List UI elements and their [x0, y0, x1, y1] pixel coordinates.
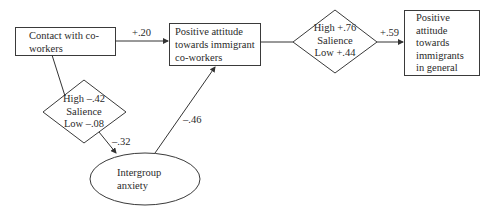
node-attitude-general-line4: immigrants — [416, 50, 464, 63]
moderator-left-line3: Low –.08 — [49, 118, 119, 131]
node-attitude-coworkers-text: Positive attitude towards immigrant co-w… — [175, 25, 255, 64]
edge-label-contact-attitude: +.20 — [132, 27, 151, 39]
node-attitude-general-line5: in general — [416, 62, 464, 75]
node-attitude-coworkers-line1: Positive attitude — [175, 25, 255, 38]
edge-contact-to-moderator-left — [52, 55, 65, 96]
moderator-right-line1: High +.76 — [300, 22, 370, 35]
node-attitude-general-line2: attitude — [416, 25, 464, 38]
edge-label-anxiety-attitude: –.46 — [183, 114, 201, 126]
moderator-right-text: High +.76 Salience Low +.44 — [300, 22, 370, 60]
edge-label-attitude-general: +.59 — [380, 27, 399, 39]
moderator-left-text: High –.42 Salience Low –.08 — [49, 93, 119, 131]
node-attitude-general-line1: Positive — [416, 12, 464, 25]
node-anxiety-text: Intergroup anxiety — [117, 166, 161, 192]
moderator-left-line2: Salience — [49, 106, 119, 119]
node-contact-line2: workers — [29, 42, 99, 55]
edge-anxiety-to-attitude — [155, 67, 215, 153]
node-attitude-coworkers-line3: co-workers — [175, 51, 255, 64]
node-attitude-general-line3: towards — [416, 37, 464, 50]
edge-label-contact-anxiety: –.32 — [112, 136, 130, 148]
node-anxiety-line1: Intergroup — [117, 166, 161, 179]
moderator-right-line2: Salience — [300, 35, 370, 48]
node-contact-line1: Contact with co- — [29, 29, 99, 42]
node-attitude-coworkers-line2: towards immigrant — [175, 38, 255, 51]
node-anxiety-line2: anxiety — [117, 179, 161, 192]
moderator-right-line3: Low +.44 — [300, 47, 370, 60]
node-attitude-general-text: Positive attitude towards immigrants in … — [416, 12, 464, 75]
moderator-left-line1: High –.42 — [49, 93, 119, 106]
node-contact-text: Contact with co- workers — [29, 29, 99, 55]
